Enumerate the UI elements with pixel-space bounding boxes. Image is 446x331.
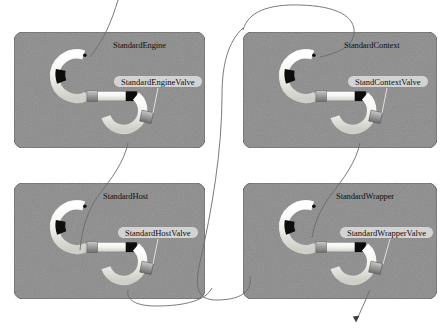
valve-label-standard-context[interactable]: StandContextValve bbox=[347, 75, 429, 88]
panel-background bbox=[243, 32, 437, 148]
panel-title-standard-wrapper: StandardWrapper bbox=[336, 191, 394, 201]
panel-background bbox=[14, 32, 205, 148]
panel-standard-engine[interactable] bbox=[14, 32, 205, 148]
valve-label-standard-engine[interactable]: StandardEngineValve bbox=[113, 75, 203, 88]
arrowhead-down bbox=[353, 316, 359, 322]
diagram-canvas: StandardEngine StandardContext StandardH… bbox=[0, 0, 446, 331]
panel-title-standard-host: StandardHost bbox=[103, 191, 148, 201]
valve-label-standard-host[interactable]: StandardHostValve bbox=[117, 226, 199, 239]
connector-arrowheads bbox=[353, 316, 359, 322]
panel-title-standard-context: StandardContext bbox=[344, 40, 400, 50]
panel-title-standard-engine: StandardEngine bbox=[113, 40, 166, 50]
panel-standard-context[interactable] bbox=[243, 32, 437, 148]
valve-label-standard-wrapper[interactable]: StandardWrapperValve bbox=[339, 226, 434, 239]
